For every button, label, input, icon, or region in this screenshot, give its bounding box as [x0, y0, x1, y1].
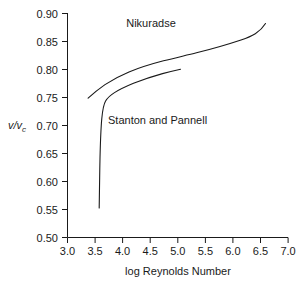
y-axis-title: v/vc	[8, 119, 26, 134]
x-axis-ticks	[68, 238, 289, 244]
x-tick-label: 5.0	[170, 245, 185, 257]
x-tick-label: 6.0	[225, 245, 240, 257]
series-line-stanton-and-pannell	[99, 69, 180, 208]
y-axis-ticks	[62, 14, 68, 238]
annotation-nikuradse: Nikuradse	[126, 17, 176, 29]
y-tick-label: 0.70	[37, 120, 58, 132]
y-tick-label: 0.60	[37, 176, 58, 188]
chart-canvas: 0.50 0.55 0.60 0.65 0.70 0.75 0.80 0.85 …	[0, 0, 303, 283]
y-tick-label: 0.85	[37, 36, 58, 48]
x-tick-label: 5.5	[198, 245, 213, 257]
chart-figure: 0.50 0.55 0.60 0.65 0.70 0.75 0.80 0.85 …	[0, 0, 303, 283]
y-tick-label: 0.75	[37, 92, 58, 104]
x-tick-label: 3.0	[60, 245, 75, 257]
x-tick-label: 3.5	[87, 245, 102, 257]
y-tick-label: 0.50	[37, 232, 58, 244]
x-axis-title: log Reynolds Number	[125, 265, 231, 277]
x-tick-label: 7.0	[280, 245, 295, 257]
y-tick-label: 0.80	[37, 64, 58, 76]
y-axis-title-subscript: c	[22, 125, 26, 134]
x-tick-label: 4.5	[143, 245, 158, 257]
y-tick-label: 0.65	[37, 148, 58, 160]
x-tick-label: 4.0	[115, 245, 130, 257]
x-tick-label: 6.5	[253, 245, 268, 257]
annotation-stanton-and-pannell: Stanton and Pannell	[108, 114, 207, 126]
x-axis-tick-labels: 3.0 3.5 4.0 4.5 5.0 5.5 6.0 6.5 7.0	[60, 245, 296, 257]
y-axis-tick-labels: 0.50 0.55 0.60 0.65 0.70 0.75 0.80 0.85 …	[37, 8, 58, 244]
y-tick-label: 0.90	[37, 8, 58, 20]
series-line-nikuradse	[88, 24, 265, 99]
y-tick-label: 0.55	[37, 204, 58, 216]
